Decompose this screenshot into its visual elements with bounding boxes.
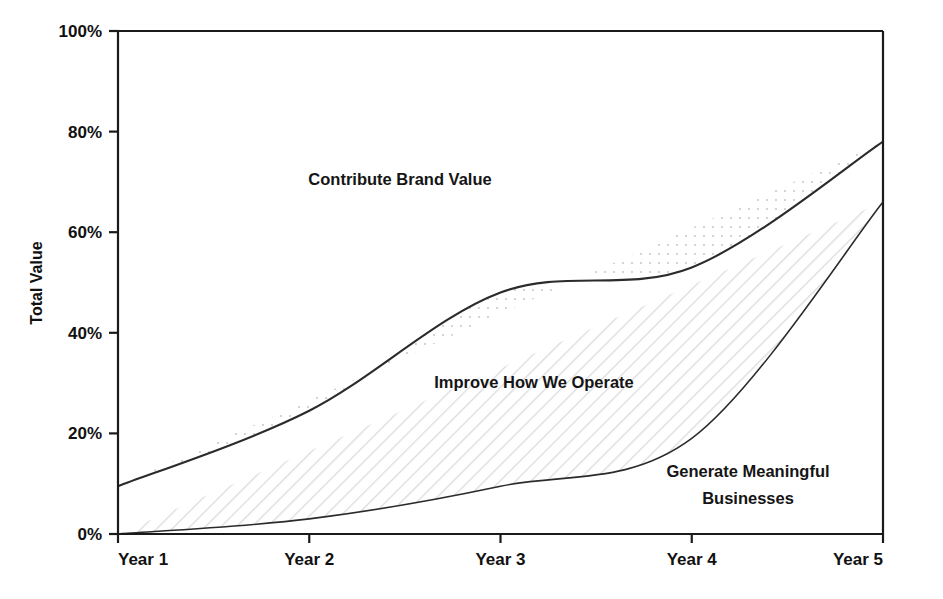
- series-label-generate-meaningful-businesses-line2: Businesses: [702, 489, 794, 507]
- y-tick-label: 80%: [68, 123, 102, 142]
- y-axis-tick-labels: 0%20%40%60%80%100%: [59, 22, 102, 544]
- y-tick-label: 40%: [68, 324, 102, 343]
- y-axis-title: Total Value: [28, 241, 45, 324]
- series-label-contribute-brand-value: Contribute Brand Value: [308, 170, 491, 188]
- y-axis-ticks: [109, 31, 118, 534]
- x-tick-label: Year 1: [118, 550, 168, 569]
- y-tick-label: 20%: [68, 424, 102, 443]
- x-tick-label: Year 5: [833, 550, 883, 569]
- x-tick-label: Year 2: [284, 550, 334, 569]
- y-tick-label: 60%: [68, 223, 102, 242]
- chart-container: 0%20%40%60%80%100% Year 1Year 2Year 3Yea…: [0, 0, 943, 599]
- x-axis-ticks: [118, 534, 883, 543]
- stacked-area-chart: 0%20%40%60%80%100% Year 1Year 2Year 3Yea…: [0, 0, 943, 599]
- area-band-generate-meaningful-businesses: [118, 202, 883, 534]
- series-label-generate-meaningful-businesses-line1: Generate Meaningful: [666, 462, 829, 480]
- series-label-improve-how-we-operate: Improve How We Operate: [434, 373, 634, 391]
- x-tick-label: Year 3: [475, 550, 525, 569]
- x-axis-tick-labels: Year 1Year 2Year 3Year 4Year 5: [118, 550, 883, 569]
- y-tick-label: 0%: [77, 525, 102, 544]
- x-tick-label: Year 4: [667, 550, 718, 569]
- y-tick-label: 100%: [59, 22, 102, 41]
